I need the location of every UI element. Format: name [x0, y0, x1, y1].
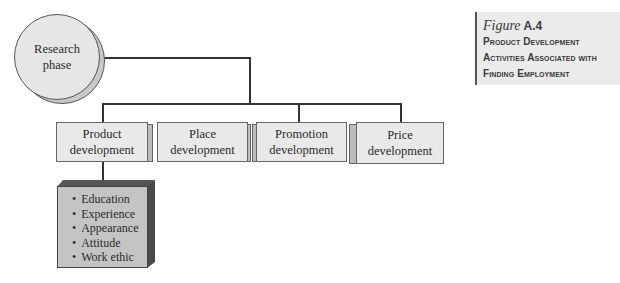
product-box-bevel [147, 124, 153, 162]
list-item: Appearance [72, 221, 147, 236]
connector-branch-horizontal [102, 103, 402, 105]
figure-number: A.4 [524, 19, 543, 33]
connector-drop-product [102, 103, 104, 122]
list-item: Attitude [72, 236, 147, 251]
list-item: Work ethic [72, 250, 147, 265]
connector-drop-price [400, 103, 402, 122]
place-development-node: Placedevelopment [157, 122, 248, 162]
node-line1: Place [189, 127, 216, 141]
node-line2: development [269, 143, 334, 157]
connector-product-to-list [102, 162, 104, 182]
connector-root-vertical [249, 57, 251, 105]
node-line1: Price [387, 128, 413, 142]
node-line1: Promotion [275, 127, 328, 141]
list-item: Experience [72, 207, 147, 222]
product-activities-list: Education Experience Appearance Attitude… [57, 186, 148, 268]
list-box-right-bevel [147, 180, 155, 268]
connector-drop-promotion [298, 103, 300, 122]
figure-caption: FigureA.4 Product Development Activities… [475, 12, 620, 85]
research-phase-node: Researchphase [14, 14, 100, 100]
figure-heading: FigureA.4 [483, 16, 620, 34]
list-item: Education [72, 192, 147, 207]
figure-title-line: Product Development [483, 34, 620, 50]
node-line2: development [170, 143, 235, 157]
research-phase-line1: Research [34, 42, 80, 56]
figure-title-line: Activities Associated with [483, 50, 620, 66]
node-line2: development [70, 143, 135, 157]
place-box-bevel [247, 124, 251, 162]
figure-title-line: Finding Employment [483, 66, 620, 82]
node-line1: Product [83, 127, 122, 141]
connector-root-horizontal [100, 57, 251, 59]
research-phase-line2: phase [43, 58, 71, 72]
node-line2: development [368, 144, 433, 158]
price-development-node: Pricedevelopment [356, 122, 444, 164]
figure-label: Figure [483, 18, 521, 33]
promotion-development-node: Promotiondevelopment [256, 122, 347, 162]
product-development-node: Productdevelopment [56, 122, 148, 162]
